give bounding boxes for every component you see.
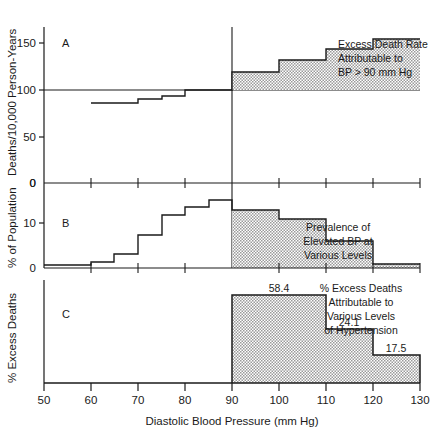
x-axis: 50 60 70 80 90 100 110 120 130 Diastolic…	[38, 383, 430, 427]
panel-a-ytick-label-150: 150	[17, 37, 36, 49]
panel-b-annotation-line2: Elevated BP at	[303, 235, 372, 247]
panel-c: % Excess Deaths C 58.4 24.1 17.5 % Exces…	[6, 280, 420, 383]
xtick-label-120: 120	[363, 394, 382, 406]
panel-b-annotation-line1: Prevalence of	[306, 221, 370, 233]
panel-a-ytick-label-100: 100	[17, 84, 36, 96]
panel-a-annotation-line2: Attributable to	[338, 52, 403, 64]
panel-a-annotation-line3: BP > 90 mm Hg	[338, 66, 412, 78]
xtick-label-100: 100	[269, 394, 288, 406]
panel-b: % of Population B 0 10 0	[6, 177, 420, 274]
xtick-label-80: 80	[179, 394, 192, 406]
panel-b-ytick-label-0-bottom: 0	[30, 262, 36, 274]
xtick-label-90: 90	[226, 394, 239, 406]
panel-b-ytick-label-0-top: 0	[30, 177, 36, 189]
panel-b-letter: B	[62, 217, 69, 229]
xtick-label-70: 70	[132, 394, 145, 406]
xtick-label-110: 110	[317, 394, 335, 406]
panel-b-ylabel: % of Population	[6, 187, 18, 268]
panel-a-letter: A	[62, 37, 70, 49]
panel-b-ytick-label-10: 10	[23, 217, 36, 229]
xtick-label-50: 50	[38, 394, 51, 406]
panel-c-annotation-line2: Attributable to	[329, 296, 394, 308]
panel-a-annotation-line1: Excess Death Rate	[338, 38, 428, 50]
panel-b-annotation-line3: Various Levels	[304, 249, 372, 261]
xtick-label-130: 130	[410, 394, 429, 406]
panel-a: Deaths/10,000 Person-Years A 150 100 50 …	[6, 27, 428, 189]
panel-c-annotation-line4: of Hypertension	[324, 324, 398, 336]
panel-c-bar-label-1: 58.4	[269, 282, 290, 294]
xtick-label-60: 60	[85, 394, 98, 406]
panel-c-annotation-line1: % Excess Deaths	[320, 282, 402, 294]
panel-a-ytick-label-50: 50	[23, 131, 36, 143]
x-axis-title: Diastolic Blood Pressure (mm Hg)	[145, 415, 318, 427]
panel-a-ylabel: Deaths/10,000 Person-Years	[6, 28, 18, 176]
figure-svg: Deaths/10,000 Person-Years A 150 100 50 …	[0, 0, 439, 433]
panel-c-letter: C	[62, 308, 70, 320]
panel-c-ylabel: % Excess Deaths	[6, 293, 18, 383]
x-axis-ticks	[44, 383, 420, 391]
figure-container: Deaths/10,000 Person-Years A 150 100 50 …	[0, 0, 439, 433]
panel-c-annotation-line3: Various Levels	[327, 310, 395, 322]
panel-c-bar-label-3: 17.5	[386, 342, 407, 354]
